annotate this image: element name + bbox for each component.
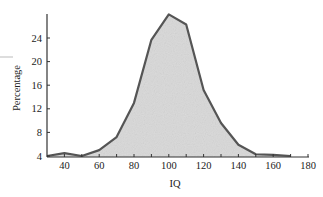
y-tick-label: 12	[32, 103, 43, 114]
distribution-area	[47, 14, 291, 157]
x-tick-label: 60	[94, 160, 105, 171]
x-tick-label: 120	[196, 160, 212, 171]
y-tick-label: 8	[37, 127, 42, 138]
x-axis-title: IQ	[169, 178, 180, 189]
iq-distribution-chart: 4812162024 406080100120140160180 IQ Perc…	[0, 0, 323, 197]
y-tick-label: 24	[32, 33, 43, 44]
x-tick-label: 80	[129, 160, 140, 171]
x-tick-label: 180	[300, 160, 316, 171]
x-tick-label: 140	[231, 160, 247, 171]
x-tick-label: 160	[265, 160, 281, 171]
x-tick-label: 40	[59, 160, 70, 171]
x-tick-label: 100	[161, 160, 177, 171]
y-axis-title: Percentage	[11, 65, 22, 111]
y-tick-label: 16	[32, 80, 43, 91]
y-tick-label: 20	[32, 56, 43, 67]
y-tick-label: 4	[37, 151, 43, 162]
